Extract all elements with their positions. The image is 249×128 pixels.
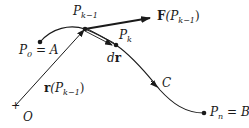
label-pn-main: P [210,105,218,119]
label-position-open: (P [50,81,63,95]
point-pk-minus-1 [83,27,88,32]
label-force: F(Pk−1) [157,10,200,22]
dr-vector-line2 [85,31,112,45]
label-p-k-minus-1-sub: k−1 [81,11,98,20]
label-force-open: (P [166,9,179,23]
label-p-k-main: P [119,28,127,42]
label-origin: O [23,111,33,123]
label-p-k-minus-1-main: P [73,4,81,18]
label-curve-c: C [162,77,171,89]
label-dr-d: d [107,51,115,65]
label-p0-main: P [19,43,27,57]
label-position: r(Pk−1) [44,82,84,94]
dr-vector-line1 [86,28,114,43]
label-pn-equals-b: Pn = B [210,106,249,118]
label-force-f: F [157,9,166,23]
label-p-k-minus-1: Pk−1 [73,5,98,17]
label-p-k-sub: k [127,35,132,44]
label-p0-equals-a: P0 = A [19,44,59,56]
point-pk [114,43,119,48]
label-position-sub: k−1 [63,88,80,97]
label-position-close: ) [80,81,85,95]
label-pn-rest: = B [223,105,249,119]
label-p0-rest: = A [32,43,58,57]
label-p-k: Pk [119,29,132,41]
label-force-sub: k−1 [178,16,195,25]
label-pn-sub: n [218,112,223,121]
label-dr-r: r [115,51,121,65]
point-pn [202,111,207,116]
label-dr: dr [107,52,121,64]
label-force-close: ) [195,9,200,23]
origin-mark: + [11,100,20,111]
label-p0-sub: 0 [27,50,32,59]
